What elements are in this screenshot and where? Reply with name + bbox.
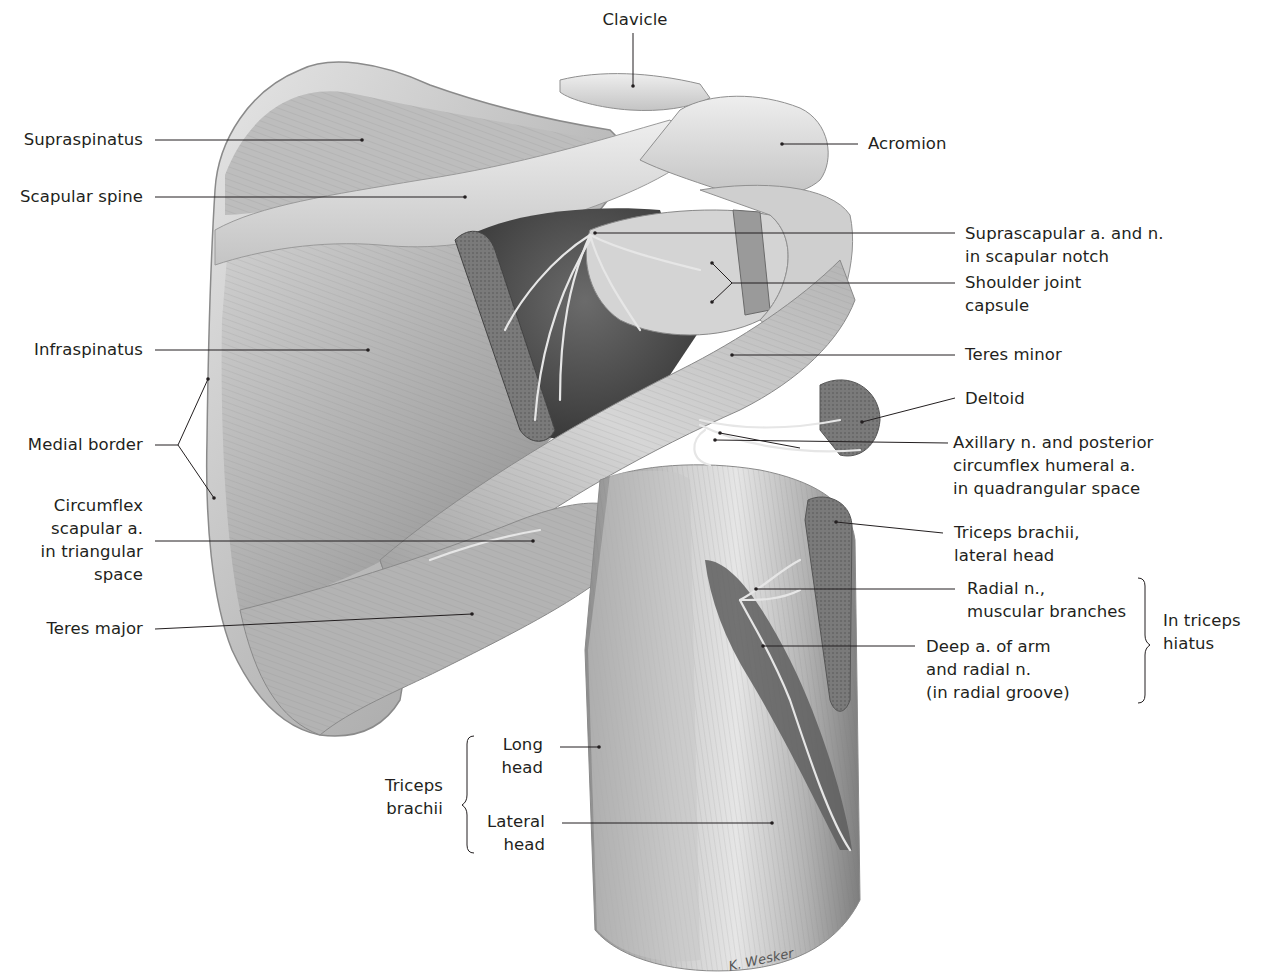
label-triceps-brachii: Triceps brachii (370, 774, 443, 820)
label-text: capsule (965, 294, 1081, 317)
label-text: (in radial groove) (926, 681, 1070, 704)
label-radial-branches: Radial n., muscular branches (967, 577, 1126, 623)
label-text: Radial n., (967, 577, 1126, 600)
label-lateral-head: Lateral head (470, 810, 545, 856)
label-deep-artery: Deep a. of arm and radial n. (in radial … (926, 635, 1070, 704)
label-shoulder-capsule: Shoulder joint capsule (965, 271, 1081, 317)
label-clavicle: Clavicle (590, 8, 680, 31)
label-text: in scapular notch (965, 245, 1164, 268)
label-medial-border: Medial border (0, 433, 143, 456)
label-text: Long (470, 733, 543, 756)
label-text: Acromion (868, 132, 947, 155)
clavicle-bone (560, 74, 710, 111)
label-infraspinatus: Infraspinatus (0, 338, 143, 361)
label-text: Deltoid (965, 387, 1025, 410)
label-text: Medial border (0, 433, 143, 456)
label-text: and radial n. (926, 658, 1070, 681)
label-triceps-lateral-head-top: Triceps brachii, lateral head (954, 521, 1079, 567)
label-text: in triangular (0, 540, 143, 563)
label-text: Triceps (370, 774, 443, 797)
acromion-bone (640, 96, 828, 196)
label-suprascapular: Suprascapular a. and n. in scapular notc… (965, 222, 1164, 268)
label-text: head (470, 756, 543, 779)
label-text: Suprascapular a. and n. (965, 222, 1164, 245)
label-text: space (0, 563, 143, 586)
label-text: Teres major (0, 617, 143, 640)
label-text: circumflex humeral a. (953, 454, 1153, 477)
label-text: Triceps brachii, (954, 521, 1079, 544)
label-text: Scapular spine (0, 185, 143, 208)
anatomy-figure: Clavicle Acromion Supraspinatus Scapular… (0, 0, 1271, 980)
label-text: In triceps (1163, 609, 1241, 632)
label-circumflex-scapular: Circumflex scapular a. in triangular spa… (0, 494, 143, 586)
label-text: Teres minor (965, 343, 1062, 366)
label-text: Infraspinatus (0, 338, 143, 361)
brace-triceps-hiatus (1138, 578, 1150, 703)
label-text: Circumflex (0, 494, 143, 517)
deltoid-cut-upper-right (820, 380, 880, 456)
label-teres-major: Teres major (0, 617, 143, 640)
label-supraspinatus: Supraspinatus (0, 128, 143, 151)
label-text: hiatus (1163, 632, 1241, 655)
label-axillary: Axillary n. and posterior circumflex hum… (953, 431, 1153, 500)
label-text: Supraspinatus (0, 128, 143, 151)
label-scapular-spine: Scapular spine (0, 185, 143, 208)
label-long-head: Long head (470, 733, 543, 779)
arm-group (585, 380, 880, 971)
label-text: Axillary n. and posterior (953, 431, 1153, 454)
label-text: Lateral (470, 810, 545, 833)
label-text: Shoulder joint (965, 271, 1081, 294)
triceps-long-head (588, 471, 700, 961)
label-text: head (470, 833, 545, 856)
label-text: Clavicle (590, 8, 680, 31)
label-text: muscular branches (967, 600, 1126, 623)
label-text: lateral head (954, 544, 1079, 567)
label-text: brachii (370, 797, 443, 820)
label-acromion: Acromion (868, 132, 947, 155)
label-text: scapular a. (0, 517, 143, 540)
label-teres-minor: Teres minor (965, 343, 1062, 366)
label-text: in quadrangular space (953, 477, 1153, 500)
label-text: Deep a. of arm (926, 635, 1070, 658)
label-triceps-hiatus: In triceps hiatus (1163, 609, 1241, 655)
label-deltoid: Deltoid (965, 387, 1025, 410)
